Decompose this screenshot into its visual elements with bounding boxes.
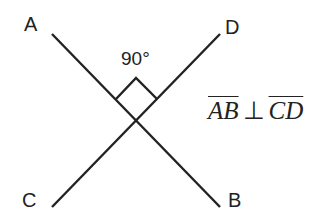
point-label-b: B xyxy=(228,190,241,210)
perpendicular-statement: AB⊥CD xyxy=(208,98,303,123)
segment-cd-notation: CD xyxy=(269,97,304,124)
point-label-a: A xyxy=(24,14,37,34)
segment-ab-notation: AB xyxy=(208,97,239,124)
point-label-d: D xyxy=(225,17,239,37)
angle-label: 90° xyxy=(121,49,150,68)
perpendicular-symbol: ⊥ xyxy=(239,97,269,124)
point-label-c: C xyxy=(22,190,36,210)
right-angle-marker xyxy=(116,78,157,99)
